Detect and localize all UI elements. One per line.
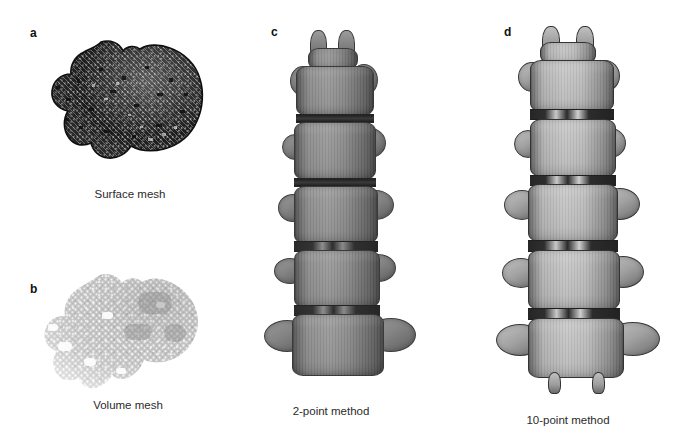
vertebral-body bbox=[294, 122, 376, 180]
surface-mesh-graphic bbox=[44, 38, 212, 183]
inferior-spur bbox=[548, 372, 561, 394]
vertebral-body bbox=[296, 66, 374, 116]
vertebral-body bbox=[294, 250, 380, 308]
surface-mesh-image bbox=[44, 38, 212, 183]
panel-b-caption: Volume mesh bbox=[58, 399, 198, 412]
panel-a-label: a bbox=[30, 27, 37, 39]
spine-model-10-point bbox=[496, 20, 662, 410]
vertebral-body bbox=[530, 60, 614, 112]
volume-mesh-graphic bbox=[38, 272, 210, 394]
vertebral-body bbox=[528, 250, 620, 310]
inferior-spur bbox=[592, 372, 605, 394]
vertebral-body bbox=[528, 184, 618, 242]
panel-c-caption: 2-point method bbox=[266, 405, 396, 418]
vertebral-body bbox=[294, 186, 378, 244]
figure-canvas: a bbox=[0, 0, 674, 442]
vertebral-body bbox=[530, 119, 616, 177]
panel-a-caption: Surface mesh bbox=[60, 188, 200, 201]
volume-mesh-image bbox=[38, 272, 210, 394]
panel-d-caption: 10-point method bbox=[498, 414, 638, 427]
panel-b-label: b bbox=[30, 283, 37, 295]
vertebral-body bbox=[292, 314, 384, 376]
vertebral-body bbox=[528, 318, 624, 378]
spine-model-2-point bbox=[262, 22, 422, 400]
